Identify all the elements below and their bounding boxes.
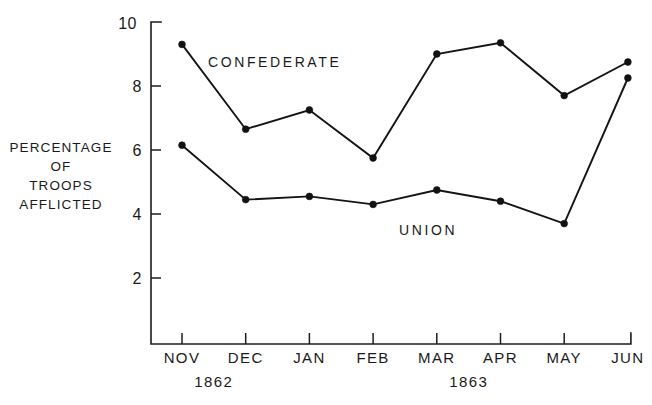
x-tick-label: APR xyxy=(483,349,518,366)
data-point-marker xyxy=(179,142,186,149)
data-point-marker xyxy=(306,193,313,200)
data-point-marker xyxy=(497,198,504,205)
data-point-marker xyxy=(306,107,313,114)
data-point-marker xyxy=(370,201,377,208)
data-point-marker xyxy=(497,39,504,46)
y-tick-label: 4 xyxy=(133,206,142,223)
chart-plot-area: 246810 NOVDECJANFEBMARAPRMAYJUN 18621863… xyxy=(0,0,652,405)
x-tick-label: FEB xyxy=(356,349,389,366)
data-point-marker xyxy=(370,155,377,162)
x-tick-label: NOV xyxy=(164,349,201,366)
series-label: CONFEDERATE xyxy=(208,54,341,70)
axis-frame xyxy=(151,22,631,344)
y-tick-label: 6 xyxy=(133,142,142,159)
data-point-marker xyxy=(625,59,632,66)
x-tick-label: MAR xyxy=(418,349,456,366)
data-point-marker xyxy=(561,92,568,99)
y-tick-label: 8 xyxy=(133,78,142,95)
y-tick-label: 10 xyxy=(118,15,137,32)
data-point-marker xyxy=(433,51,440,58)
x-axis-year-labels: 18621863 xyxy=(194,373,488,390)
x-tick-label: DEC xyxy=(228,349,264,366)
x-axis-year-label: 1862 xyxy=(194,373,233,390)
data-point-marker xyxy=(433,187,440,194)
data-point-marker xyxy=(625,75,632,82)
y-tick-label: 2 xyxy=(133,270,142,287)
y-axis-tick-labels: 246810 xyxy=(118,15,142,287)
data-point-marker xyxy=(242,126,249,133)
data-point-marker xyxy=(242,196,249,203)
x-tick-label: JUN xyxy=(611,349,644,366)
data-point-marker xyxy=(561,220,568,227)
x-axis-tick-labels: NOVDECJANFEBMARAPRMAYJUN xyxy=(164,349,645,366)
series-line xyxy=(182,78,628,224)
chart-axes xyxy=(151,22,631,344)
x-axis-year-label: 1863 xyxy=(449,373,488,390)
chart-tick-marks xyxy=(151,86,564,344)
x-tick-label: JAN xyxy=(293,349,326,366)
chart-figure: PERCENTAGE OF TROOPS AFFLICTED 246810 NO… xyxy=(0,0,652,405)
x-tick-label: MAY xyxy=(546,349,582,366)
series-label: UNION xyxy=(399,222,457,238)
data-point-marker xyxy=(179,41,186,48)
